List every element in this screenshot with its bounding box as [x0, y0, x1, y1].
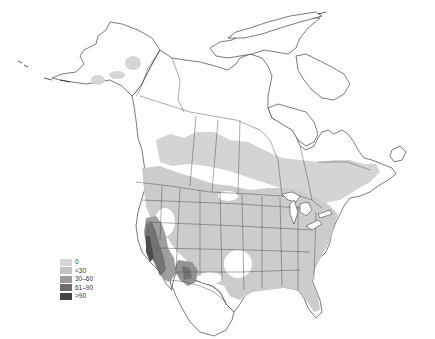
legend-item-3: 61–90: [60, 284, 93, 293]
legend-item-2: 30–60: [60, 275, 93, 284]
baffin-island: [296, 54, 350, 100]
legend-label: >90: [75, 292, 86, 300]
legend-label: <30: [75, 267, 86, 275]
legend-swatch: [60, 284, 72, 291]
newfoundland: [390, 146, 406, 162]
legend-swatch: [60, 259, 72, 266]
legend-swatch: [60, 276, 72, 283]
legend: 0 <30 30–60 61–90 >90: [60, 258, 93, 301]
legend-item-4: >90: [60, 292, 93, 301]
legend-label: 0: [75, 258, 79, 266]
legend-item-1: <30: [60, 267, 93, 276]
greenland-edge: [318, 12, 326, 14]
legend-swatch: [60, 267, 72, 274]
legend-label: 30–60: [75, 275, 93, 283]
legend-swatch: [60, 293, 72, 300]
legend-item-0: 0: [60, 258, 93, 267]
legend-label: 61–90: [75, 284, 93, 292]
